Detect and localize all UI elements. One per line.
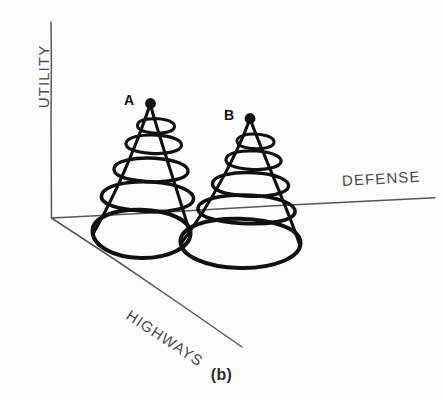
peak-b-apex-dot xyxy=(245,113,256,124)
peak-a-group xyxy=(93,98,194,258)
utility-axis-label: UTILITY xyxy=(35,29,52,125)
peak-a-apex-dot xyxy=(145,98,156,109)
peak-b-label: B xyxy=(224,107,234,123)
peak-b-base-ellipse xyxy=(181,219,301,268)
peak-b-group xyxy=(181,113,301,268)
figure-drawing xyxy=(0,0,443,400)
peak-a-label: A xyxy=(124,92,134,108)
figure-container: UTILITY DEFENSE HIGHWAYS A B (b) xyxy=(0,0,443,400)
figure-caption: (b) xyxy=(0,366,443,384)
peak-a-base-ellipse xyxy=(93,210,191,258)
peak-b-contour-2 xyxy=(226,151,281,170)
